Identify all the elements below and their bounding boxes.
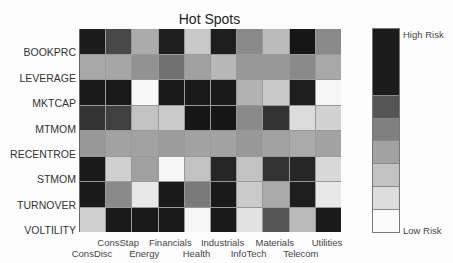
chart-title: Hot Spots xyxy=(79,11,340,27)
heatmap-cell xyxy=(185,157,210,182)
heatmap-cell xyxy=(263,157,288,182)
heatmap-cell xyxy=(80,208,105,233)
heatmap-cell xyxy=(80,55,105,80)
heatmap-cell xyxy=(106,208,131,233)
heatmap-cell xyxy=(132,157,157,182)
risk-legend-colorbar xyxy=(372,28,400,233)
heatmap-cell xyxy=(263,208,288,233)
heatmap-cell xyxy=(237,80,262,105)
heatmap-cell xyxy=(80,106,105,131)
legend-segment xyxy=(373,96,399,119)
heatmap-cell xyxy=(211,80,236,105)
heatmap-cell xyxy=(106,131,131,156)
legend-segment xyxy=(373,210,399,232)
heatmap-cell xyxy=(290,157,315,182)
heatmap-cell xyxy=(159,80,184,105)
heatmap-cell xyxy=(106,55,131,80)
heatmap-cell xyxy=(80,29,105,54)
heatmap-cell xyxy=(132,55,157,80)
heatmap-cell xyxy=(237,182,262,207)
column-label: Utilities xyxy=(292,237,362,248)
heatmap-cell xyxy=(316,208,341,233)
heatmap-cell xyxy=(132,80,157,105)
row-label: BOOKPRC xyxy=(0,46,76,58)
heatmap-cell xyxy=(185,182,210,207)
heatmap-cell xyxy=(263,182,288,207)
legend-segment xyxy=(373,29,399,96)
legend-high-label: High Risk xyxy=(403,29,444,40)
heatmap-cell xyxy=(185,29,210,54)
heatmap-cell xyxy=(290,131,315,156)
heatmap-cell xyxy=(211,182,236,207)
heatmap-cell xyxy=(211,29,236,54)
row-label: VOLTILITY xyxy=(0,224,76,236)
heatmap-grid xyxy=(79,29,341,232)
row-label: TURNOVER xyxy=(0,199,76,211)
heatmap-cell xyxy=(159,208,184,233)
heatmap-cell xyxy=(211,55,236,80)
heatmap-cell xyxy=(159,55,184,80)
heatmap-cell xyxy=(263,29,288,54)
heatmap-cell xyxy=(211,131,236,156)
heatmap-cell xyxy=(159,157,184,182)
heatmap-cell xyxy=(316,157,341,182)
heatmap-cell xyxy=(106,157,131,182)
heatmap-cell xyxy=(237,106,262,131)
heatmap-cell xyxy=(211,208,236,233)
heatmap-cell xyxy=(290,182,315,207)
heatmap-cell xyxy=(263,106,288,131)
legend-segment xyxy=(373,119,399,142)
row-label: LEVERAGE xyxy=(0,72,76,84)
heatmap-cell xyxy=(290,106,315,131)
heatmap-cell xyxy=(185,106,210,131)
row-label: RECENTROE xyxy=(0,148,76,160)
heatmap-cell xyxy=(237,157,262,182)
heatmap-cell xyxy=(290,208,315,233)
legend-segment xyxy=(373,164,399,187)
heatmap-cell xyxy=(237,131,262,156)
heatmap-cell xyxy=(211,157,236,182)
heatmap-cell xyxy=(211,106,236,131)
heatmap-cell xyxy=(316,55,341,80)
column-label: Telecom xyxy=(266,248,336,259)
legend-segment xyxy=(373,141,399,164)
legend-segment xyxy=(373,187,399,210)
heatmap-cell xyxy=(80,131,105,156)
heatmap-cell xyxy=(159,29,184,54)
heatmap-cell xyxy=(159,106,184,131)
row-label: MTMOM xyxy=(0,123,76,135)
heatmap-cell xyxy=(263,131,288,156)
heatmap-cell xyxy=(132,131,157,156)
heatmap-cell xyxy=(80,80,105,105)
heatmap-cell xyxy=(290,55,315,80)
heatmap-cell xyxy=(132,208,157,233)
heatmap-cell xyxy=(185,131,210,156)
heatmap-cell xyxy=(106,106,131,131)
heatmap-cell xyxy=(316,182,341,207)
heatmap-cell xyxy=(106,182,131,207)
heatmap-cell xyxy=(237,208,262,233)
heatmap-cell xyxy=(290,29,315,54)
heatmap-cell xyxy=(316,80,341,105)
heatmap-cell xyxy=(263,80,288,105)
legend-low-label: Low Risk xyxy=(403,225,442,236)
heatmap-cell xyxy=(316,131,341,156)
heatmap-cell xyxy=(106,29,131,54)
heatmap-cell xyxy=(185,80,210,105)
heatmap-cell xyxy=(80,182,105,207)
heatmap-cell xyxy=(132,106,157,131)
row-label: MKTCAP xyxy=(0,97,76,109)
heatmap-cell xyxy=(316,106,341,131)
heatmap-cell xyxy=(185,208,210,233)
heatmap-cell xyxy=(80,157,105,182)
heatmap-cell xyxy=(106,80,131,105)
heatmap-cell xyxy=(185,55,210,80)
heatmap-cell xyxy=(159,131,184,156)
heatmap-cell xyxy=(237,29,262,54)
heatmap-cell xyxy=(132,29,157,54)
heatmap-cell xyxy=(132,182,157,207)
heatmap-cell xyxy=(159,182,184,207)
heatmap-cell xyxy=(237,55,262,80)
heatmap-cell xyxy=(263,55,288,80)
heatmap-cell xyxy=(290,80,315,105)
